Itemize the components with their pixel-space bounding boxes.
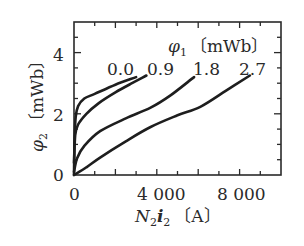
x-axis-title: N2i2〔A〕 — [134, 206, 221, 229]
data-curves — [74, 76, 250, 176]
x-tick-label-0: 0 — [69, 184, 80, 204]
y-axis-title: φ2〔mWb〕 — [27, 52, 50, 152]
curve-phi1-0-0 — [74, 77, 136, 175]
curve-label-0-9: 0.9 — [147, 59, 174, 79]
curve-label-0-0: 0.0 — [107, 59, 134, 79]
y-tick-label-2: 2 — [53, 105, 64, 125]
legend-title: φ1〔mWb〕 — [168, 36, 268, 59]
x-tick-label-4000: 4 000 — [137, 184, 186, 204]
y-tick-label-4: 4 — [53, 45, 64, 65]
y-tick-label-0: 0 — [53, 165, 64, 185]
x-tick-label-8000: 8 000 — [217, 184, 266, 204]
curve-phi1-1-8 — [74, 77, 194, 172]
curve-label-2-7: 2.7 — [239, 59, 266, 79]
flux-curve-chart: φ1〔mWb〕 0.0 0.9 1.8 2.7 4 2 0 0 4 000 8 … — [0, 0, 304, 246]
curve-label-1-8: 1.8 — [193, 59, 220, 79]
